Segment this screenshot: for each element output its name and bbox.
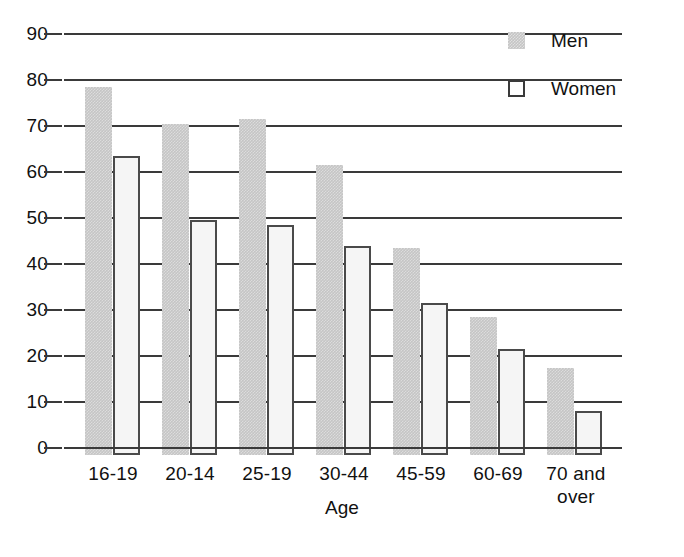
bar-men-45-59: [393, 248, 420, 455]
bar-men-25-19: [239, 119, 266, 455]
bar-women-70-and-over: [575, 411, 602, 455]
y-tick-mark-90: [44, 33, 62, 35]
bar-group-25-19: [239, 25, 297, 455]
bar-women-16-19: [113, 156, 140, 455]
bar-group-16-19: [85, 25, 143, 455]
bar-women-25-19: [267, 225, 294, 455]
y-tick-mark-80: [44, 79, 62, 81]
y-tick-label-60: 60: [4, 162, 48, 181]
bar-group-30-44: [316, 25, 374, 455]
y-tick-label-90: 90: [4, 24, 48, 43]
bar-men-20-14: [162, 124, 189, 455]
bar-men-60-69: [470, 317, 497, 455]
y-tick-label-20: 20: [4, 346, 48, 365]
y-tick-label-0: 0: [4, 438, 48, 457]
bar-women-45-59: [421, 303, 448, 455]
y-tick-label-10: 10: [4, 392, 48, 411]
bar-women-20-14: [190, 220, 217, 455]
bar-group-45-59: [393, 25, 451, 455]
y-tick-label-80: 80: [4, 70, 48, 89]
y-tick-mark-10: [44, 401, 62, 403]
y-tick-mark-60: [44, 171, 62, 173]
bar-women-60-69: [498, 349, 525, 455]
bar-group-20-14: [162, 25, 220, 455]
legend-swatch-women-icon: [508, 80, 525, 97]
legend-label-men: Men: [551, 31, 588, 50]
y-tick-label-50: 50: [4, 208, 48, 227]
bar-men-30-44: [316, 165, 343, 455]
bar-chart: 90 80 70 60 50 40 30 20 10 0: [0, 0, 684, 557]
y-tick-mark-20: [44, 355, 62, 357]
y-tick-mark-30: [44, 309, 62, 311]
legend-swatch-men-icon: [508, 32, 525, 49]
y-tick-mark-40: [44, 263, 62, 265]
y-tick-mark-70: [44, 125, 62, 127]
legend-label-women: Women: [551, 79, 616, 98]
y-tick-mark-50: [44, 217, 62, 219]
y-tick-label-70: 70: [4, 116, 48, 135]
bar-women-30-44: [344, 246, 371, 455]
legend-item-men: Men: [508, 28, 588, 52]
y-tick-label-40: 40: [4, 254, 48, 273]
legend-item-women: Women: [508, 76, 616, 100]
x-axis-title: Age: [0, 498, 684, 517]
y-tick-label-30: 30: [4, 300, 48, 319]
bar-men-16-19: [85, 87, 112, 455]
y-tick-mark-0: [44, 447, 62, 449]
bar-men-70-and-over: [547, 368, 574, 455]
